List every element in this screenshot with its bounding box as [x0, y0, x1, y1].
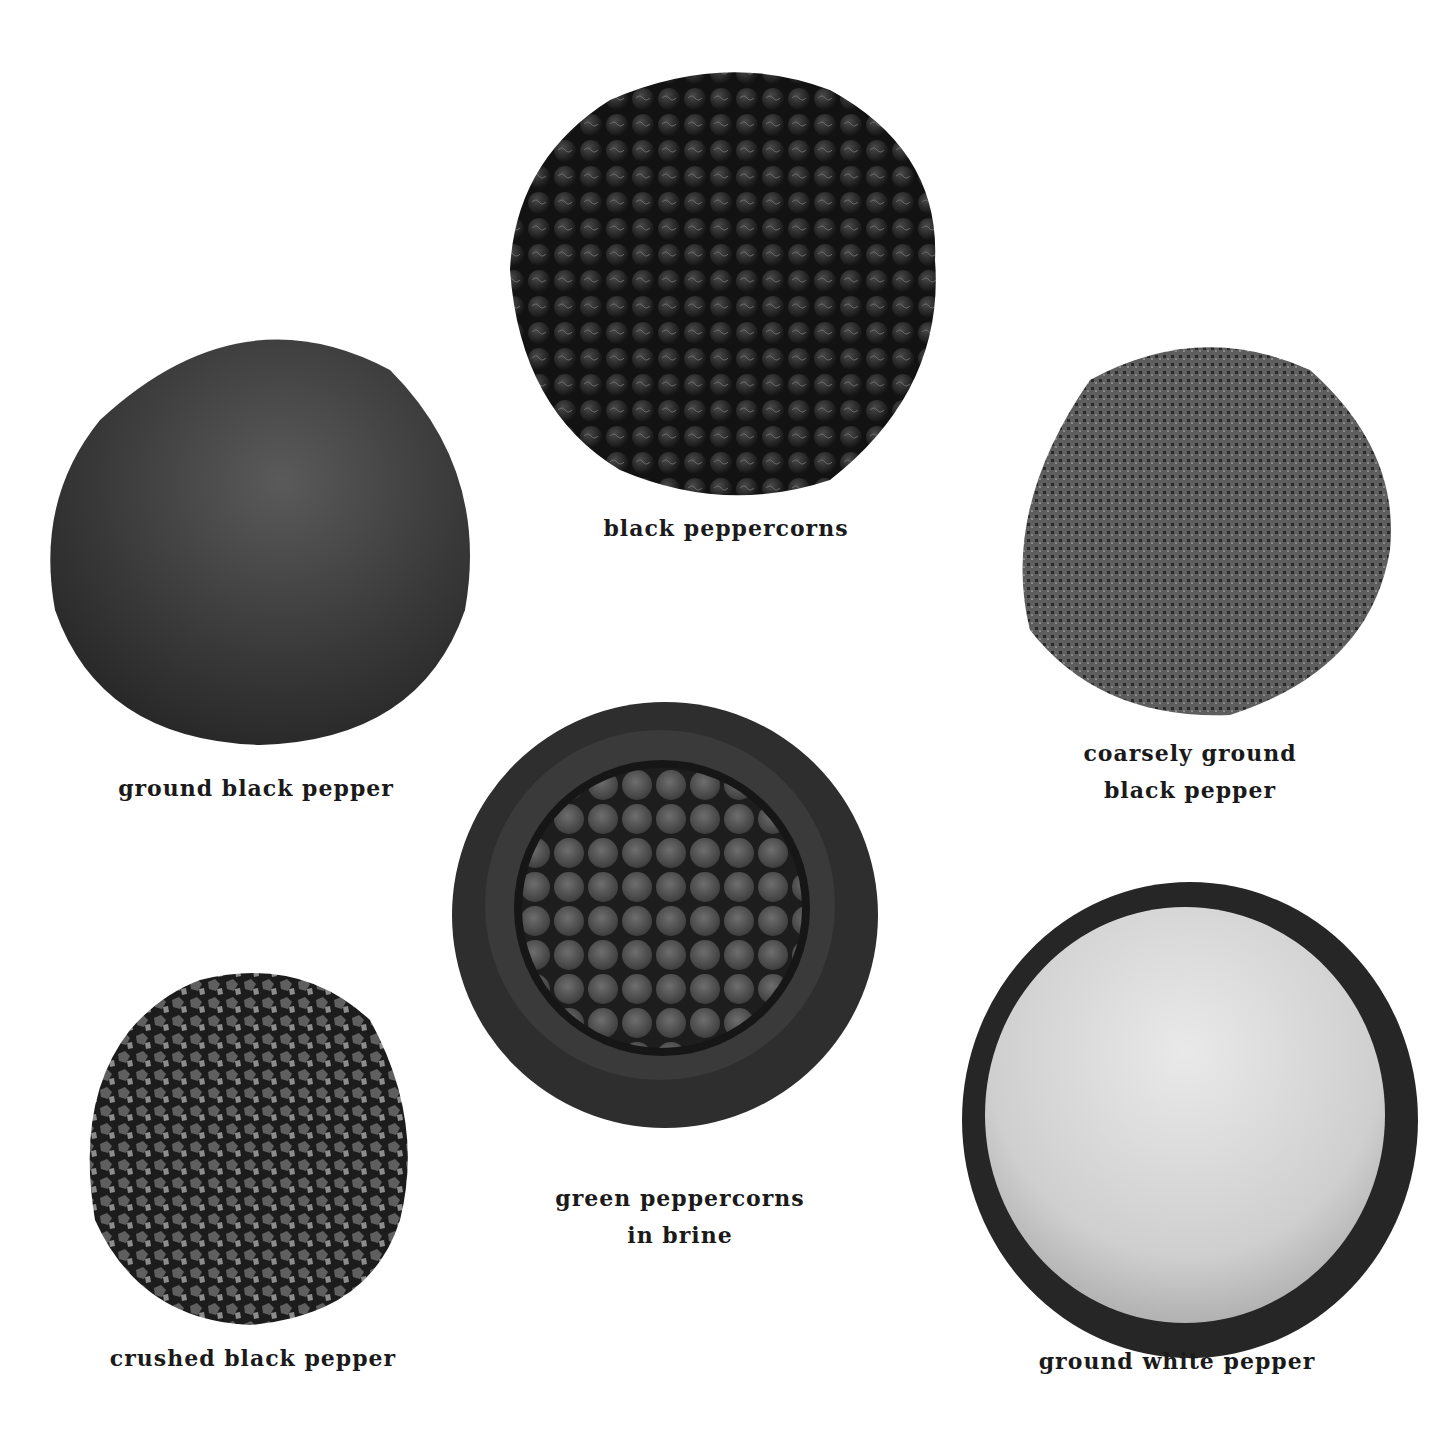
label-crushed-black-pepper: crushed black pepper: [110, 1340, 396, 1377]
ground-black-pepper-image: [40, 310, 480, 750]
label-ground-white-pepper: ground white pepper: [1039, 1343, 1316, 1380]
crushed-black-pepper-pile: [80, 960, 430, 1330]
ground-white-pepper-image: [960, 875, 1420, 1365]
black-peppercorns-pile: [500, 60, 950, 500]
green-peppercorns-bowl: [450, 700, 890, 1140]
ground-white-pepper-bowl: [960, 875, 1420, 1365]
coarsely-ground-pepper-pile: [1010, 330, 1400, 720]
green-peppercorns-image: [450, 700, 890, 1140]
pepper-varieties-photo: black peppercorns ground black pepper: [0, 0, 1447, 1438]
label-ground-black-pepper: ground black pepper: [118, 770, 394, 807]
coarsely-ground-pepper-image: [1010, 330, 1400, 720]
label-coarsely-ground-black-pepper: coarsely ground black pepper: [1083, 735, 1296, 809]
label-black-peppercorns: black peppercorns: [603, 510, 848, 547]
ground-black-pepper-mound: [40, 310, 480, 750]
peppercorns-pile-image: [500, 60, 950, 500]
crushed-black-pepper-image: [80, 960, 430, 1330]
label-green-peppercorns-in-brine: green peppercorns in brine: [555, 1180, 804, 1254]
